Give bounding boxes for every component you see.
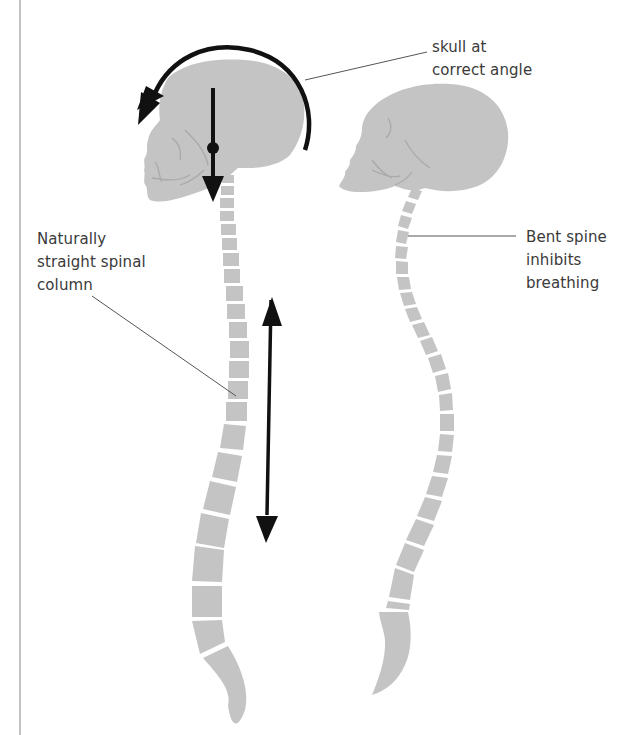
label-bent-spine: Bent spine inhibits breathing [526,226,607,295]
bent-posture-figure [339,84,508,695]
diagram-figure [0,0,620,735]
label-skull-angle: skull at correct angle [432,36,532,82]
label-line: correct angle [432,59,532,82]
pivot-dot-icon [207,142,219,154]
label-line: breathing [526,272,607,295]
label-line: column [37,274,146,297]
label-straight-spine: Naturally straight spinal column [37,228,146,297]
bent-spine [372,188,454,695]
straight-spine [192,175,249,723]
diagram-canvas: skull at correct angle Naturally straigh… [0,0,620,735]
label-line: Naturally [37,228,146,251]
leader-line-skull-angle [305,52,427,80]
label-line: straight spinal [37,251,146,274]
label-line: Bent spine [526,226,607,249]
lengthening-arrow-icon [256,297,282,543]
correct-posture-figure [137,47,309,723]
leader-line-straight-spine [92,296,236,396]
label-line: skull at [432,36,532,59]
label-line: inhibits [526,249,607,272]
skull-tilted [339,84,508,192]
